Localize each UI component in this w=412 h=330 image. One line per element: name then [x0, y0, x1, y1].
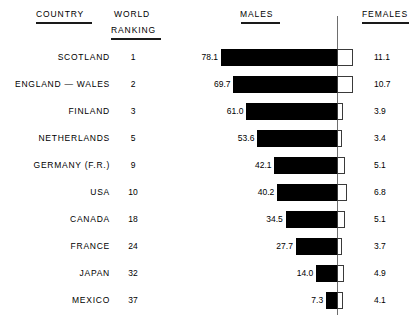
country-label: SCOTLAND	[0, 52, 110, 62]
female-value-label: 5.1	[374, 214, 386, 224]
chart-row: ENGLAND — WALES269.710.7	[0, 74, 412, 101]
world-ranking-value: 2	[118, 79, 148, 89]
female-value-label: 5.1	[374, 160, 386, 170]
male-value-label: 34.5	[243, 214, 283, 224]
chart-row: JAPAN3214.04.9	[0, 263, 412, 290]
chart-row: NETHERLANDS553.63.4	[0, 128, 412, 155]
country-label: FRANCE	[0, 241, 110, 251]
world-ranking-value: 1	[118, 52, 148, 62]
country-label: FINLAND	[0, 106, 110, 116]
male-value-label: 14.0	[273, 268, 313, 278]
column-header-world: WORLD	[114, 9, 150, 19]
male-value-label: 40.2	[234, 187, 274, 197]
male-bar	[286, 211, 337, 228]
female-bar	[337, 76, 353, 93]
male-value-label: 27.7	[253, 241, 293, 251]
world-ranking-value: 24	[118, 241, 148, 251]
female-value-label: 6.8	[374, 187, 386, 197]
male-bar	[233, 76, 337, 93]
country-label: USA	[0, 187, 110, 197]
male-value-label: 69.7	[190, 79, 230, 89]
male-bar	[246, 103, 337, 120]
male-value-label: 78.1	[178, 52, 218, 62]
female-bar	[337, 184, 347, 201]
female-bar	[337, 49, 353, 66]
world-ranking-value: 5	[118, 133, 148, 143]
country-label: ENGLAND — WALES	[0, 79, 110, 89]
chart-row: USA1040.26.8	[0, 182, 412, 209]
female-bar	[337, 265, 344, 282]
country-label: JAPAN	[0, 268, 110, 278]
column-header-ranking: RANKING	[111, 25, 156, 35]
column-header-females-underline	[362, 22, 409, 24]
female-bar	[337, 157, 345, 174]
column-header-males: MALES	[240, 9, 273, 19]
column-header-ranking-underline	[111, 38, 161, 40]
female-value-label: 11.1	[374, 52, 390, 62]
chart-container: COUNTRY WORLD RANKING MALES FEMALES SCOT…	[0, 0, 412, 330]
male-bar	[274, 157, 337, 174]
country-label: NETHERLANDS	[0, 133, 110, 143]
male-value-label: 42.1	[231, 160, 271, 170]
world-ranking-value: 3	[118, 106, 148, 116]
male-bar	[296, 238, 337, 255]
country-label: GERMANY (F.R.)	[0, 160, 110, 170]
column-header-females: FEMALES	[362, 9, 408, 19]
world-ranking-value: 18	[118, 214, 148, 224]
female-value-label: 4.1	[374, 295, 386, 305]
chart-row: FINLAND361.03.9	[0, 101, 412, 128]
female-value-label: 3.9	[374, 106, 386, 116]
world-ranking-value: 10	[118, 187, 148, 197]
male-bar	[221, 49, 337, 66]
female-bar	[337, 292, 343, 309]
world-ranking-value: 32	[118, 268, 148, 278]
female-value-label: 3.7	[374, 241, 386, 251]
female-bar	[337, 103, 343, 120]
chart-row: CANADA1834.55.1	[0, 209, 412, 236]
world-ranking-value: 37	[118, 295, 148, 305]
chart-row: SCOTLAND178.111.1	[0, 47, 412, 74]
world-ranking-value: 9	[118, 160, 148, 170]
female-bar	[337, 130, 342, 147]
female-bar	[337, 211, 345, 228]
male-bar	[316, 265, 337, 282]
female-value-label: 10.7	[374, 79, 391, 89]
chart-row: GERMANY (F.R.)942.15.1	[0, 155, 412, 182]
column-header-males-underline	[241, 22, 280, 24]
chart-row: MEXICO377.34.1	[0, 290, 412, 317]
column-header-country-underline	[36, 22, 92, 24]
male-value-label: 53.6	[214, 133, 254, 143]
female-bar	[337, 238, 342, 255]
male-bar	[326, 292, 337, 309]
male-bar	[277, 184, 337, 201]
chart-row: FRANCE2427.73.7	[0, 236, 412, 263]
country-label: CANADA	[0, 214, 110, 224]
female-value-label: 3.4	[374, 133, 386, 143]
male-bar	[257, 130, 337, 147]
male-value-label: 61.0	[203, 106, 243, 116]
country-label: MEXICO	[0, 295, 110, 305]
male-value-label: 7.3	[283, 295, 323, 305]
column-header-country: COUNTRY	[36, 9, 84, 19]
female-value-label: 4.9	[374, 268, 386, 278]
